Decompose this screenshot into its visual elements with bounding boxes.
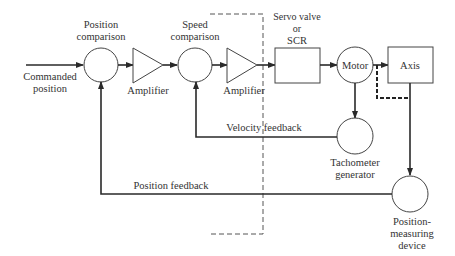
amplifier2-label: Amplifier — [223, 85, 265, 96]
tachometer-label-2: generator — [335, 169, 375, 180]
position-measuring-circle — [392, 176, 428, 212]
axis-label: Axis — [400, 60, 420, 71]
position-comparison-label-1: Position — [84, 19, 119, 30]
amplifier2-triangle — [227, 48, 257, 83]
position-measuring-label-2: measuring — [390, 228, 434, 239]
servo-block-diagram: Commanded position Position comparison A… — [0, 0, 455, 256]
servo-label-3: SCR — [287, 35, 307, 46]
amplifier1-triangle — [133, 48, 163, 83]
position-measuring-label-1: Position- — [393, 216, 431, 227]
tachometer-circle — [337, 118, 373, 154]
speed-comparison-circle — [178, 48, 212, 82]
commanded-label-2: position — [33, 83, 68, 94]
position-feedback-label: Position feedback — [134, 180, 210, 191]
velocity-feedback-label: Velocity feedback — [226, 122, 302, 133]
amplifier1-label: Amplifier — [127, 85, 169, 96]
position-measuring-label-3: device — [398, 240, 426, 251]
position-comparison-circle — [84, 48, 118, 82]
servo-label-1: Servo valve — [273, 11, 321, 22]
servo-box — [275, 48, 320, 83]
position-comparison-label-2: comparison — [77, 31, 127, 42]
speed-comparison-label-1: Speed — [182, 19, 208, 30]
commanded-label-1: Commanded — [23, 71, 77, 82]
speed-comparison-label-2: comparison — [171, 31, 221, 42]
servo-label-2: or — [293, 23, 302, 34]
tachometer-label-1: Tachometer — [330, 157, 380, 168]
motor-label: Motor — [342, 60, 369, 71]
